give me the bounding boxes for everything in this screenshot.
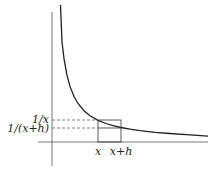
label-x-plus-h: x+h xyxy=(110,145,133,158)
reciprocal-function-diagram: 1/x 1/(x+h) x x+h xyxy=(0,0,220,172)
label-x: x xyxy=(95,145,102,158)
label-1-over-x-plus-h: 1/(x+h) xyxy=(7,122,49,135)
upper-rectangle xyxy=(98,120,121,142)
curve-1-over-x xyxy=(61,5,209,136)
